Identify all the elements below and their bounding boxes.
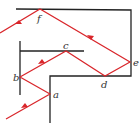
label-d: d <box>101 79 107 90</box>
label-c: c <box>63 40 69 51</box>
mirrors <box>16 9 131 123</box>
label-e: e <box>133 57 139 68</box>
label-a: a <box>53 89 59 100</box>
outer-mirror <box>16 9 131 123</box>
label-b: b <box>13 72 19 83</box>
label-f: f <box>36 13 43 24</box>
reflection-diagram: a b c d e f <box>0 0 140 131</box>
